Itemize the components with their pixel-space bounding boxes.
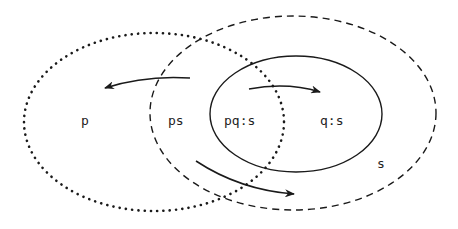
label-p: p — [81, 113, 89, 128]
label-s: s — [377, 156, 385, 171]
label-ps: ps — [168, 113, 184, 128]
arrow-ps-to-p — [105, 77, 190, 88]
region-s-boundary — [150, 16, 436, 210]
diagram-canvas: p ps pq:s q:s s — [0, 0, 458, 229]
arrow-ps-to-s — [196, 161, 294, 194]
label-q-s: q:s — [320, 113, 343, 128]
label-pq-s: pq:s — [224, 113, 255, 128]
arrow-pqs-to-qs — [249, 86, 320, 92]
